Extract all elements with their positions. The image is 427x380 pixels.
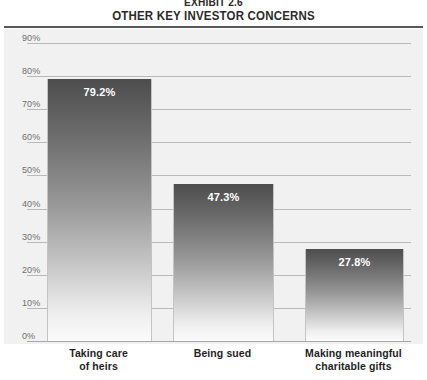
chart-container: EXHIBIT 2.6 OTHER KEY INVESTOR CONCERNS … (0, 0, 427, 380)
x-axis-labels: Taking careof heirsBeing suedMaking mean… (4, 347, 423, 379)
page-title: OTHER KEY INVESTOR CONCERNS (17, 9, 410, 24)
bar-value-label: 27.8% (306, 256, 403, 268)
bar[interactable]: 27.8% (305, 249, 404, 341)
exhibit-label: EXHIBIT 2.6 (17, 0, 410, 8)
bar[interactable]: 47.3% (173, 184, 274, 341)
bar-value-label: 47.3% (174, 191, 273, 203)
category-label-line-1: Being sued (194, 347, 252, 359)
x-axis-category-label: Making meaningfulcharitable gifts (269, 347, 427, 373)
bars-group: 79.2%47.3%27.8% (4, 29, 423, 344)
bar[interactable]: 79.2% (47, 79, 152, 341)
category-label-line-2: of heirs (14, 360, 184, 373)
chart-title-block: EXHIBIT 2.6 OTHER KEY INVESTOR CONCERNS (0, 0, 427, 24)
category-label-line-1: Taking care (69, 347, 128, 359)
title-divider (4, 26, 423, 28)
category-label-line-2: charitable gifts (269, 360, 427, 373)
bar-value-label: 79.2% (48, 86, 151, 98)
category-label-line-1: Making meaningful (305, 347, 402, 359)
plot-area: 90%80%70%60%50%40%30%20%10%0% 79.2%47.3%… (4, 29, 423, 344)
